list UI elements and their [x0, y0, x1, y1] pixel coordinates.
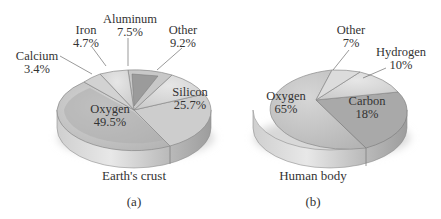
label-hydrogen: Hydrogen 10% — [368, 46, 434, 72]
leader-other — [333, 50, 349, 70]
label-aluminum: Aluminum 7.5% — [98, 13, 162, 39]
label-other-b: Other 7% — [330, 24, 372, 50]
label-value: 65% — [258, 103, 314, 116]
label-value: 18% — [340, 108, 394, 121]
label-value: 7.5% — [98, 26, 162, 39]
chart-title-earths-crust: Earth's crust — [84, 168, 184, 184]
label-calcium: Calcium 3.4% — [12, 50, 62, 76]
label-value: 10% — [368, 59, 434, 72]
label-silicon: Silicon 25.7% — [163, 86, 217, 112]
label-value: 7% — [330, 37, 372, 50]
panel-label-a: (a) — [114, 194, 154, 210]
leader-calcium — [60, 56, 92, 74]
label-oxygen-b: Oxygen 65% — [258, 90, 314, 116]
figure: Calcium 3.4% Iron 4.7% Aluminum 7.5% Oth… — [0, 0, 441, 219]
label-value: 49.5% — [82, 116, 138, 129]
label-value: 9.2% — [160, 37, 206, 50]
label-value: 25.7% — [163, 99, 217, 112]
label-oxygen-a: Oxygen 49.5% — [82, 103, 138, 129]
label-carbon: Carbon 18% — [340, 95, 394, 121]
panel-label-b: (b) — [293, 194, 333, 210]
label-other-a: Other 9.2% — [160, 24, 206, 50]
leader-other — [157, 48, 182, 70]
label-value: 3.4% — [12, 63, 62, 76]
chart-title-human-body: Human body — [263, 168, 363, 184]
